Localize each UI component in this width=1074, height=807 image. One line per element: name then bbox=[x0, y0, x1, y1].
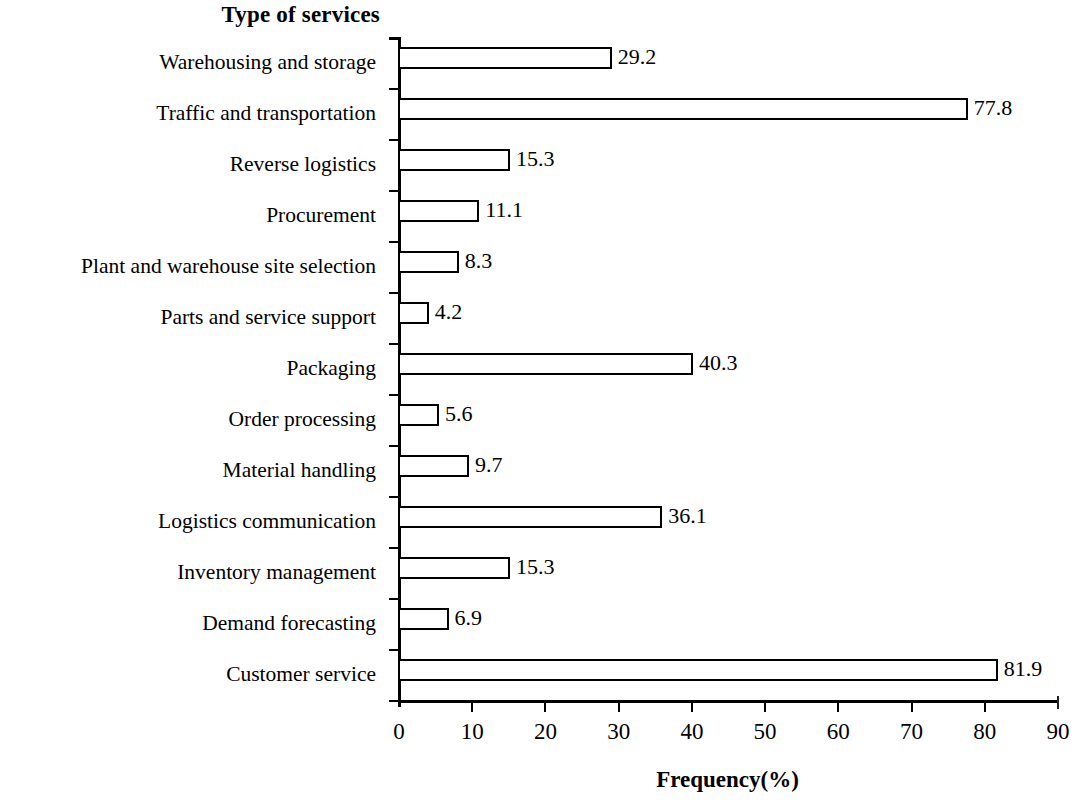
category-label: Warehousing and storage bbox=[0, 52, 384, 74]
x-axis-tick-label: 40 bbox=[680, 718, 703, 746]
x-axis-tick bbox=[618, 700, 620, 712]
x-axis-tick-label: 90 bbox=[1047, 718, 1070, 746]
bar bbox=[398, 506, 662, 528]
bar bbox=[398, 455, 469, 477]
category-label: Inventory management bbox=[0, 562, 384, 584]
bar-row: 36.1 bbox=[398, 496, 1067, 547]
x-axis-tick bbox=[691, 700, 693, 712]
x-axis-tick bbox=[911, 700, 913, 712]
plot-area: 29.277.815.311.18.34.240.35.69.736.115.3… bbox=[398, 37, 1067, 700]
bar bbox=[398, 200, 479, 222]
x-axis-tick-labels: 0102030405060708090 bbox=[398, 718, 1074, 748]
bar-row: 4.2 bbox=[398, 292, 1067, 343]
bar-value-label: 11.1 bbox=[485, 197, 523, 223]
x-axis-tick bbox=[764, 700, 766, 712]
x-axis-tick bbox=[837, 700, 839, 712]
bar-value-label: 4.2 bbox=[435, 299, 463, 325]
bar-row: 40.3 bbox=[398, 343, 1067, 394]
category-label: Reverse logistics bbox=[0, 154, 384, 176]
bar bbox=[398, 98, 968, 120]
bar-value-label: 15.3 bbox=[516, 146, 555, 172]
bar-value-label: 77.8 bbox=[974, 95, 1013, 121]
bar-row: 5.6 bbox=[398, 394, 1067, 445]
category-label: Packaging bbox=[0, 358, 384, 380]
category-label: Plant and warehouse site selection bbox=[0, 256, 384, 278]
category-label: Parts and service support bbox=[0, 307, 384, 329]
x-axis-tick bbox=[1057, 696, 1059, 709]
bar-value-label: 36.1 bbox=[668, 503, 707, 529]
x-axis-tick-label: 70 bbox=[900, 718, 923, 746]
category-label: Logistics communication bbox=[0, 511, 384, 533]
category-label: Order processing bbox=[0, 409, 384, 431]
bar-value-label: 40.3 bbox=[699, 350, 738, 376]
category-label: Demand forecasting bbox=[0, 613, 384, 635]
bar-value-label: 5.6 bbox=[445, 401, 473, 427]
y-axis-title: Type of services bbox=[221, 2, 380, 28]
bar-row: 77.8 bbox=[398, 88, 1067, 139]
bar-value-label: 8.3 bbox=[465, 248, 493, 274]
x-axis-tick bbox=[398, 693, 401, 707]
bar bbox=[398, 302, 429, 324]
bar-row: 15.3 bbox=[398, 547, 1067, 598]
bar-row: 29.2 bbox=[398, 37, 1067, 88]
bar bbox=[398, 353, 693, 375]
bar-value-label: 29.2 bbox=[618, 44, 657, 70]
bar bbox=[398, 47, 612, 69]
x-axis-tick bbox=[544, 700, 546, 712]
bar bbox=[398, 404, 439, 426]
x-axis-tick bbox=[471, 700, 473, 712]
bar-row: 6.9 bbox=[398, 598, 1067, 649]
bar bbox=[398, 149, 510, 171]
category-label-column: Warehousing and storageTraffic and trans… bbox=[0, 37, 384, 700]
x-axis-tick-label: 0 bbox=[393, 718, 405, 746]
x-axis-tick-label: 10 bbox=[461, 718, 484, 746]
bar-row: 9.7 bbox=[398, 445, 1067, 496]
x-axis-tick bbox=[984, 700, 986, 712]
category-label: Traffic and transportation bbox=[0, 103, 384, 125]
bar-value-label: 15.3 bbox=[516, 554, 555, 580]
bar-row: 8.3 bbox=[398, 241, 1067, 292]
bar-row: 81.9 bbox=[398, 649, 1067, 700]
bar bbox=[398, 659, 998, 681]
category-label: Material handling bbox=[0, 460, 384, 482]
bar bbox=[398, 251, 459, 273]
x-axis-tick-label: 60 bbox=[827, 718, 850, 746]
category-label: Procurement bbox=[0, 205, 384, 227]
bar bbox=[398, 608, 449, 630]
x-axis-tick-label: 30 bbox=[607, 718, 630, 746]
category-label: Customer service bbox=[0, 664, 384, 686]
x-axis-tick-label: 20 bbox=[534, 718, 557, 746]
x-axis-tick-label: 80 bbox=[973, 718, 996, 746]
bar-value-label: 81.9 bbox=[1004, 656, 1043, 682]
bar-value-label: 6.9 bbox=[455, 605, 483, 631]
bar-row: 15.3 bbox=[398, 139, 1067, 190]
x-axis-ticks bbox=[398, 700, 1057, 712]
x-axis-tick-label: 50 bbox=[754, 718, 777, 746]
bar bbox=[398, 557, 510, 579]
bar-value-label: 9.7 bbox=[475, 452, 503, 478]
x-axis-title: Frequency(%) bbox=[398, 767, 1057, 793]
bar-row: 11.1 bbox=[398, 190, 1067, 241]
